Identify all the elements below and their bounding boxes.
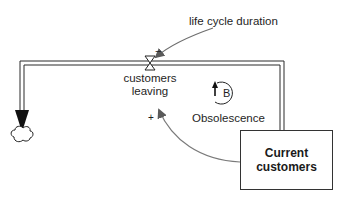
stock-flow-diagram: life cycle duration − customers leaving …	[0, 0, 344, 199]
flow-customers-leaving[interactable]: customers leaving	[119, 72, 181, 98]
loop-identifier: B	[223, 87, 230, 100]
flow-label-line2: leaving	[119, 85, 181, 98]
polarity-minus: −	[155, 45, 161, 58]
auxiliary-life-cycle-duration[interactable]: life cycle duration	[189, 15, 278, 28]
stock-current-customers[interactable]: Current customers	[240, 130, 333, 190]
stock-label-line2: customers	[256, 160, 317, 174]
polarity-plus: +	[148, 111, 154, 124]
cloud-icon	[11, 126, 33, 141]
loop-name-obsolescence: Obsolescence	[192, 112, 265, 125]
valve-icon[interactable]	[145, 56, 155, 70]
link-duration-to-flow	[156, 28, 213, 57]
stock-label-line1: Current	[256, 146, 317, 160]
flow-label-line1: customers	[119, 72, 181, 85]
